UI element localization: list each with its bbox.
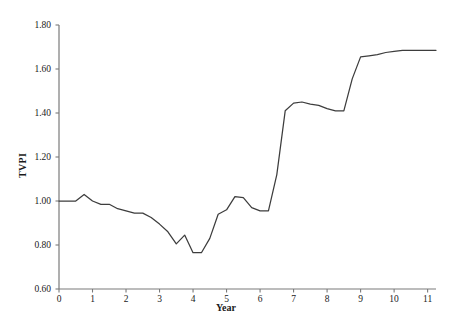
data-series-line: [59, 50, 436, 252]
tvpi-line-chart: TVPI Year 0.600.801.001.201.401.601.80 0…: [0, 0, 452, 327]
plot-area: [0, 0, 452, 327]
